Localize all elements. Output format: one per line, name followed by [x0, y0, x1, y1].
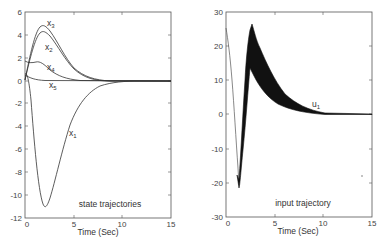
label-x5: x5 [49, 80, 57, 91]
speck [361, 175, 363, 177]
right-plot: 30 20 10 0 -10 -20 -30 0 5 10 15 Time (S… [211, 8, 377, 236]
xtick-label: 15 [368, 219, 377, 228]
series-u1-band [237, 24, 372, 188]
left-xlabel: Time (Sec) [77, 227, 118, 237]
ytick-label: 0 [18, 77, 23, 86]
ytick-label: 20 [214, 42, 223, 51]
series-x2 [25, 32, 171, 81]
ytick-label: -4 [15, 122, 23, 131]
series-x3 [25, 26, 171, 81]
ytick-label: 0 [219, 110, 224, 119]
ytick-label: 6 [18, 8, 23, 17]
right-title-annotation: input trajectory [275, 198, 331, 208]
series-x1 [25, 74, 171, 207]
ytick-label: -20 [211, 179, 223, 188]
label-x2: x2 [45, 42, 53, 53]
xtick-label: 10 [118, 220, 127, 229]
ytick-label: -2 [15, 99, 23, 108]
ytick-label: 2 [18, 54, 23, 63]
right-xlabel: Time (Sec) [277, 226, 318, 236]
xtick-label: 0 [25, 220, 30, 229]
ytick-label: -30 [211, 213, 223, 222]
ytick-label: -8 [15, 168, 23, 177]
label-x1: x1 [69, 128, 77, 139]
xtick-label: 5 [72, 220, 77, 229]
series-u1-thin [226, 28, 239, 185]
xtick-label: 15 [167, 220, 176, 229]
label-x4: x4 [47, 62, 55, 73]
xtick-label: 0 [226, 219, 231, 228]
label-u1: u1 [312, 99, 321, 110]
left-title-annotation: state trajectories [79, 199, 141, 209]
ytick-label: -10 [10, 191, 22, 200]
ytick-label: -6 [15, 145, 23, 154]
figure: 6 4 2 0 -2 -4 -6 -8 -10 -12 0 5 10 15 Ti… [0, 0, 388, 243]
ytick-label: 30 [214, 8, 223, 17]
left-plot: 6 4 2 0 -2 -4 -6 -8 -10 -12 0 5 10 15 Ti… [10, 8, 176, 237]
xtick-label: 10 [319, 219, 328, 228]
ytick-label: 4 [18, 31, 23, 40]
ytick-label: 10 [214, 76, 223, 85]
ytick-label: -10 [211, 145, 223, 154]
label-x3: x3 [47, 18, 55, 29]
ytick-label: -12 [10, 214, 22, 223]
